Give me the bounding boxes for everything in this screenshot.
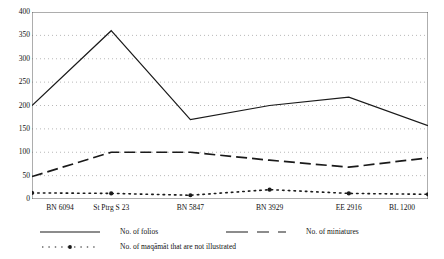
data-point-marker [347,191,351,195]
solid-line-icon [40,227,100,237]
legend-item-miniatures: No. of miniatures [226,224,359,239]
data-point-marker [109,191,113,195]
x-tick-label: St Ptrg S 23 [93,203,129,212]
y-tick-label: 250 [4,78,30,86]
x-tick-label: BN 5847 [177,203,204,212]
y-tick-label: 300 [4,55,30,63]
legend-label-folios: No. of folios [120,227,158,236]
data-point-marker [426,192,428,196]
x-tick-label: BN 3929 [256,203,283,212]
y-tick-label: 150 [4,125,30,133]
y-tick-label: 0 [4,195,30,203]
x-tick-label: BN 6094 [46,203,73,212]
y-tick-label: 200 [4,102,30,110]
y-tick-label: 50 [4,172,30,180]
dotted-line-icon [40,242,100,252]
plot-area [32,12,428,199]
series-line-0 [32,31,428,126]
x-tick-label: BL 1200 [389,203,415,212]
y-axis-tick-labels: 400350300250200150100500 [0,0,30,199]
legend-item-folios: No. of folios [40,224,158,239]
chart-title [0,0,444,4]
legend-label-maqamat: No. of maqāmāt that are not illustrated [120,242,236,251]
chart-legend: No. of folios No. of miniatures [0,224,444,258]
x-axis-tick-labels: BN 6094St Ptrg S 23BN 5847BN 3929EE 2916… [0,203,444,217]
legend-item-maqamat: No. of maqāmāt that are not illustrated [40,239,236,254]
dashed-line-icon [226,227,286,237]
data-point-marker [32,191,34,195]
data-point-marker [188,193,192,197]
y-tick-label: 350 [4,31,30,39]
series-line-2 [32,190,428,196]
data-point-marker [268,188,272,192]
legend-row-2: No. of maqāmāt that are not illustrated [0,239,444,254]
chart-container: 400350300250200150100500 BN 6094St Ptrg … [0,0,444,259]
legend-label-miniatures: No. of miniatures [306,227,359,236]
chart-plot-svg [32,12,428,199]
legend-row-1: No. of folios No. of miniatures [0,224,444,239]
x-tick-label: EE 2916 [336,203,362,212]
series-line-1 [32,152,428,176]
y-tick-label: 400 [4,8,30,16]
y-tick-label: 100 [4,148,30,156]
